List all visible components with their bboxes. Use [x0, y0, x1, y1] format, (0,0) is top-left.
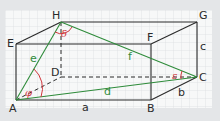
diagonal-label-e: e [30, 52, 37, 65]
vertex-label-E: E [7, 37, 14, 50]
edge-label-a: a [82, 101, 89, 114]
vertex-label-D: D [51, 66, 59, 79]
edge-label-c: c [200, 40, 206, 53]
cuboid-diagram: H G E F D C A B a b c e f d φ δ ε [0, 0, 220, 121]
vertex-label-H: H [52, 9, 60, 22]
vertex-label-G: G [199, 9, 208, 22]
angle-label-epsilon: ε [172, 70, 177, 81]
vertex-label-B: B [147, 102, 155, 115]
angle-label-delta: δ [61, 28, 67, 39]
edge-label-b: b [178, 86, 185, 99]
angle-label-phi: φ [25, 87, 32, 98]
vertex-label-A: A [9, 102, 17, 115]
vertex-label-F: F [147, 31, 153, 44]
vertex-label-C: C [199, 71, 207, 84]
diagonal-label-d: d [104, 85, 111, 98]
